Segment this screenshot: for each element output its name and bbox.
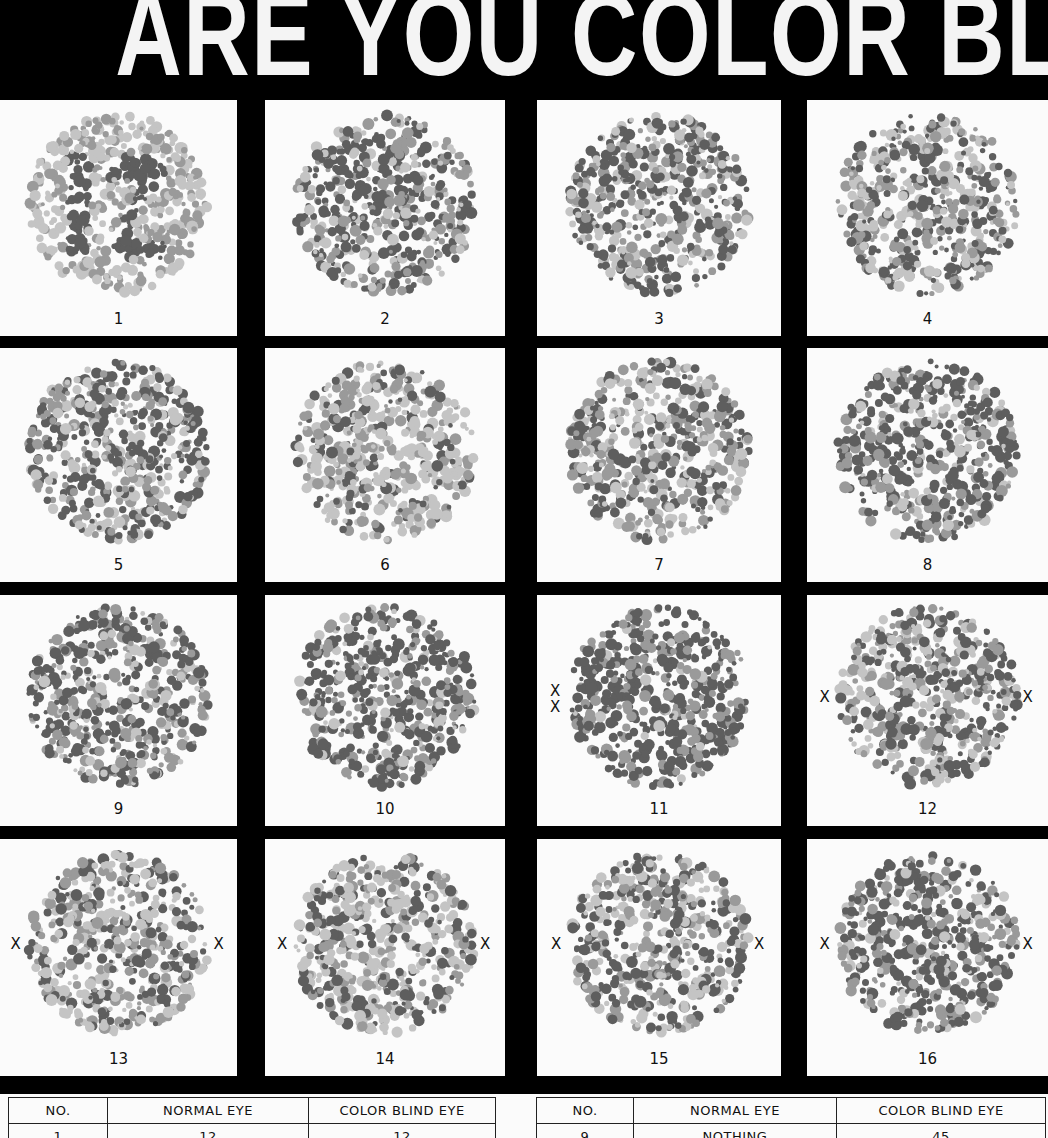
header-no: NO.	[537, 1098, 634, 1124]
ishihara-plate-icon	[265, 839, 505, 1076]
ishihara-plate-icon	[0, 100, 237, 336]
plate-panel-16: 16XX	[807, 839, 1048, 1076]
ishihara-plate-icon	[537, 348, 781, 582]
x-marker: X	[1023, 935, 1033, 953]
plate-number-label: 6	[355, 556, 415, 574]
table-row: 9 NOTHING 45	[537, 1124, 1046, 1138]
plate-panel-2: 2	[265, 100, 505, 336]
header-normal-eye: NORMAL EYE	[108, 1098, 309, 1124]
ishihara-plate-icon	[807, 595, 1048, 826]
ishihara-plate-icon	[537, 100, 781, 336]
ishihara-plate-icon	[807, 348, 1048, 582]
plate-panel-10: 10	[265, 595, 505, 826]
plate-number-label: 3	[629, 310, 689, 328]
plate-number-label: 5	[89, 556, 149, 574]
plate-panel-12: 12XX	[807, 595, 1048, 826]
cell-color-blind: 45	[837, 1124, 1046, 1138]
plate-number-label: 9	[89, 800, 149, 818]
answer-key-right: NO. NORMAL EYE COLOR BLIND EYE 9 NOTHING…	[536, 1097, 1046, 1138]
x-marker: X	[277, 935, 287, 953]
header-color-blind-eye: COLOR BLIND EYE	[837, 1098, 1046, 1124]
plate-number-label: 7	[629, 556, 689, 574]
ishihara-plate-icon	[0, 595, 237, 826]
ishihara-plate-icon	[807, 839, 1048, 1076]
plate-panel-9: 9	[0, 595, 237, 826]
x-marker: X	[820, 935, 830, 953]
ishihara-plate-icon	[537, 839, 781, 1076]
plate-number-label: 4	[898, 310, 958, 328]
plate-number-label: 13	[89, 1050, 149, 1068]
plate-number-label: 1	[89, 310, 149, 328]
ishihara-plate-icon	[265, 100, 505, 336]
answer-key-left: NO. NORMAL EYE COLOR BLIND EYE 1 12 12	[8, 1097, 496, 1138]
plate-panel-3: 3	[537, 100, 781, 336]
plate-panel-15: 15XX	[537, 839, 781, 1076]
plate-number-label: 14	[355, 1050, 415, 1068]
x-marker: X	[551, 935, 561, 953]
plate-panel-13: 13XX	[0, 839, 237, 1076]
cell-no: 9	[537, 1124, 634, 1138]
x-marker: X	[820, 688, 830, 706]
x-marker: X	[1023, 688, 1033, 706]
header-no: NO.	[9, 1098, 108, 1124]
plate-number-label: 8	[898, 556, 958, 574]
ishihara-plate-icon	[537, 595, 781, 826]
cell-normal: 12	[108, 1124, 309, 1138]
x-marker: X	[550, 698, 560, 716]
cell-color-blind: 12	[309, 1124, 496, 1138]
header-normal-eye: NORMAL EYE	[634, 1098, 837, 1124]
ishihara-plate-icon	[807, 100, 1048, 336]
table-row: 1 12 12	[9, 1124, 496, 1138]
ishihara-plate-icon	[0, 348, 237, 582]
x-marker: X	[214, 935, 224, 953]
plate-number-label: 16	[898, 1050, 958, 1068]
plate-number-label: 10	[355, 800, 415, 818]
plate-panel-6: 6	[265, 348, 505, 582]
plate-panel-14: 14XX	[265, 839, 505, 1076]
ishihara-plate-icon	[265, 595, 505, 826]
x-marker: X	[480, 935, 490, 953]
header-color-blind-eye: COLOR BLIND EYE	[309, 1098, 496, 1124]
plate-number-label: 12	[898, 800, 958, 818]
plate-panel-11: 11XX	[537, 595, 781, 826]
page-title: ARE YOU COLOR BLIND?	[115, 0, 932, 90]
plate-panel-5: 5	[0, 348, 237, 582]
plate-number-label: 2	[355, 310, 415, 328]
x-marker: X	[754, 935, 764, 953]
ishihara-plate-icon	[0, 839, 237, 1076]
plate-panel-8: 8	[807, 348, 1048, 582]
cell-normal: NOTHING	[634, 1124, 837, 1138]
plate-number-label: 15	[629, 1050, 689, 1068]
cell-no: 1	[9, 1124, 108, 1138]
plate-number-label: 11	[629, 800, 689, 818]
plate-panel-4: 4	[807, 100, 1048, 336]
x-marker: X	[11, 935, 21, 953]
ishihara-plate-icon	[265, 348, 505, 582]
plate-panel-1: 1	[0, 100, 237, 336]
plate-panel-7: 7	[537, 348, 781, 582]
